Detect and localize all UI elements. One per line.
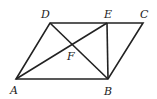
segments — [16, 23, 143, 79]
label-a: A — [9, 84, 18, 97]
label-d: D — [40, 8, 50, 21]
label-f: F — [66, 50, 75, 63]
label-c: C — [140, 8, 149, 21]
segment-db — [50, 23, 108, 79]
segment-eb — [107, 23, 108, 79]
label-e: E — [103, 8, 112, 21]
label-b: B — [103, 85, 112, 98]
segment-ae — [16, 23, 107, 79]
geometry-diagram: D E C F A B — [0, 0, 157, 99]
